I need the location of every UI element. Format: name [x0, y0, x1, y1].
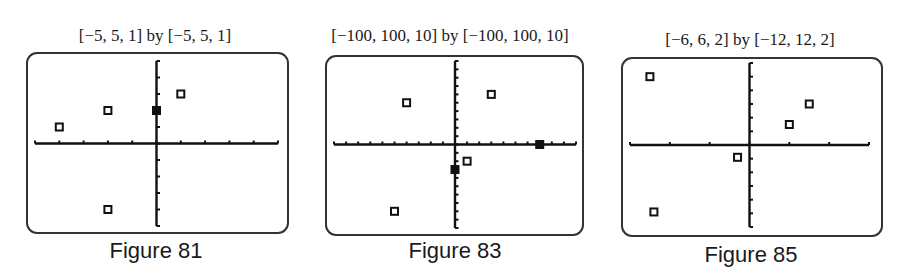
data-point [734, 154, 741, 161]
figure-85-panel: [−6, 6, 2] by [−12, 12, 2] Figure 85 [0, 0, 902, 278]
scatter-plot [0, 0, 902, 278]
data-point [786, 121, 793, 128]
data-point [806, 101, 813, 108]
data-point [646, 73, 653, 80]
data-point [650, 208, 657, 215]
figure-caption: Figure 85 [695, 242, 807, 268]
